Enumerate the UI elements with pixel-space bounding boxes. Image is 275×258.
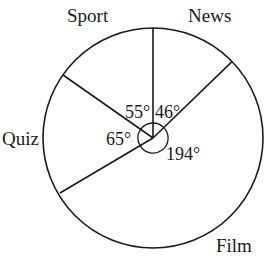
angle-arc-sport xyxy=(141,123,153,129)
label-film: Film xyxy=(216,235,252,256)
angle-arc-quiz xyxy=(138,129,141,145)
label-quiz: Quiz xyxy=(2,128,39,149)
label-sport: Sport xyxy=(67,5,109,26)
divider-news-film xyxy=(153,62,232,138)
label-news: News xyxy=(188,5,231,26)
angle-label-quiz: 65° xyxy=(106,129,131,149)
angle-label-news: 46° xyxy=(155,102,180,122)
angle-label-film: 194° xyxy=(166,144,200,164)
angle-arc-news xyxy=(153,123,164,128)
angle-label-sport: 55° xyxy=(125,102,150,122)
pie-chart: Sport News Quiz Film 55° 46° 65° 194° xyxy=(0,0,275,258)
